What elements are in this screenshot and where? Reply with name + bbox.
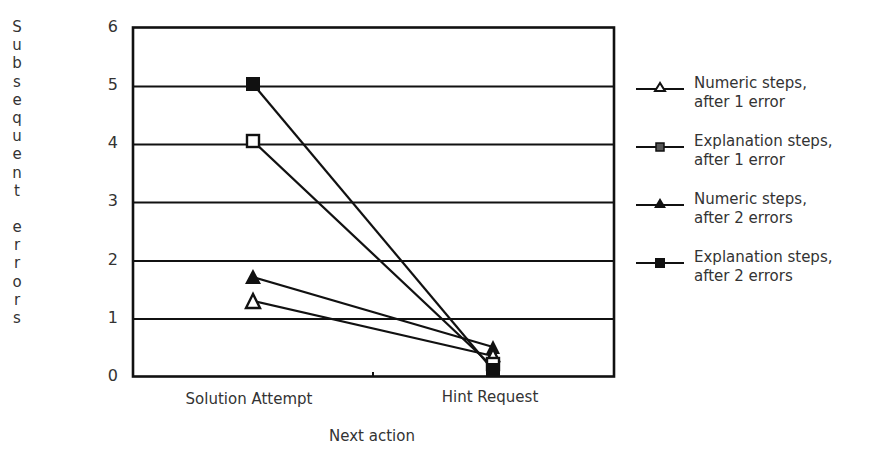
open-square-marker bbox=[247, 135, 259, 147]
legend-label: Numeric steps, after 2 errors bbox=[694, 190, 807, 228]
line-explanation-1-error bbox=[253, 141, 493, 367]
x-tick-solution-attempt: Solution Attempt bbox=[186, 390, 313, 408]
open-triangle-icon bbox=[636, 78, 684, 94]
legend-label: Explanation steps, after 1 error bbox=[694, 132, 832, 170]
filled-triangle-icon bbox=[636, 194, 684, 210]
legend-item-numeric-2-errors: Numeric steps, after 2 errors bbox=[636, 190, 891, 248]
x-axis-title: Next action bbox=[329, 427, 415, 445]
line-explanation-2-errors bbox=[253, 84, 493, 370]
filled-square-marker bbox=[246, 77, 260, 91]
series-lines bbox=[253, 84, 493, 370]
legend-item-explanation-1-error: Explanation steps, after 1 error bbox=[636, 132, 891, 190]
legend: Numeric steps, after 1 error Explanation… bbox=[636, 74, 891, 306]
filled-triangle-marker bbox=[245, 269, 261, 284]
legend-item-explanation-2-errors: Explanation steps, after 2 errors bbox=[636, 248, 891, 306]
line-numeric-2-errors bbox=[253, 277, 493, 347]
legend-item-numeric-1-error: Numeric steps, after 1 error bbox=[636, 74, 891, 132]
legend-label: Explanation steps, after 2 errors bbox=[694, 248, 832, 286]
gridlines bbox=[133, 87, 614, 320]
filled-square-marker bbox=[486, 363, 500, 376]
legend-label: Numeric steps, after 1 error bbox=[694, 74, 807, 112]
filled-square-icon bbox=[636, 252, 684, 268]
x-tick-hint-request: Hint Request bbox=[442, 388, 539, 406]
open-square-icon bbox=[636, 136, 684, 152]
